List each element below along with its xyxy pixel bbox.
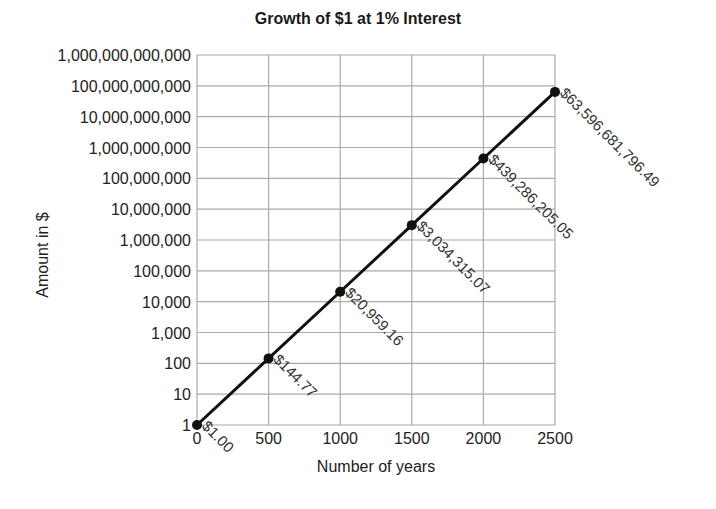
y-tick-label: 10 xyxy=(173,386,191,403)
y-tick-label: 100 xyxy=(164,355,191,372)
x-axis-label: Number of years xyxy=(317,458,435,475)
data-point-label: $439,286,205.05 xyxy=(485,151,577,243)
y-tick-label: 1 xyxy=(182,417,191,434)
y-tick-label: 1,000,000 xyxy=(120,232,191,249)
y-tick-label: 1,000 xyxy=(151,325,191,342)
y-tick-label: 100,000,000 xyxy=(102,170,191,187)
y-tick-label: 10,000,000,000 xyxy=(80,109,191,126)
data-point-label: $144.77 xyxy=(270,350,320,400)
x-tick-label: 1000 xyxy=(322,430,358,447)
data-point-label: $1.00 xyxy=(199,417,238,456)
y-tick-label: 100,000 xyxy=(133,263,191,280)
y-tick-label: 10,000,000 xyxy=(111,201,191,218)
data-point-label: $3,034,315.07 xyxy=(414,217,494,297)
y-tick-label: 100,000,000,000 xyxy=(71,78,191,95)
x-tick-label: 2500 xyxy=(537,430,573,447)
chart-canvas: 1101001,00010,000100,0001,000,00010,000,… xyxy=(0,0,716,509)
x-tick-label: 1500 xyxy=(394,430,430,447)
y-tick-label: 10,000 xyxy=(142,294,191,311)
data-line xyxy=(197,92,555,425)
y-axis-label: Amount in $ xyxy=(34,212,51,297)
x-tick-label: 2000 xyxy=(466,430,502,447)
y-tick-label: 1,000,000,000,000 xyxy=(58,47,192,64)
data-point-label: $20,959.16 xyxy=(342,284,407,349)
y-tick-label: 1,000,000,000 xyxy=(89,140,191,157)
x-tick-label: 0 xyxy=(193,430,202,447)
x-tick-label: 500 xyxy=(255,430,282,447)
data-point-label: $63,596,681,796.49 xyxy=(557,84,663,190)
